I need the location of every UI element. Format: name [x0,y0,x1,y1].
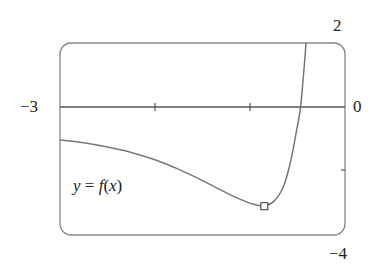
function-lhs: y [73,176,81,195]
y-min-label: −4 [329,245,347,262]
function-label: y = f(x) [73,177,122,194]
function-var: x [109,176,117,195]
y-max-label: 2 [333,17,342,34]
paren-close: ) [117,176,123,195]
x-max-label: 0 [353,98,362,115]
plot-frame [60,43,345,235]
function-equals: = [81,176,99,195]
chart-canvas [0,0,383,271]
minimum-marker [261,203,268,210]
x-min-label: −3 [20,98,38,115]
